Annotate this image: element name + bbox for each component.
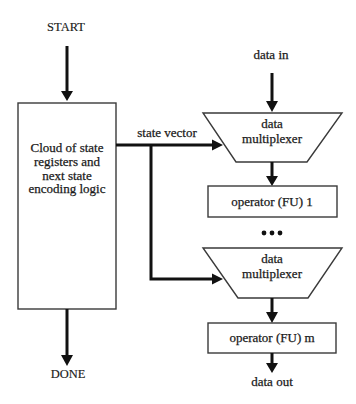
mux-1-line-1: data (261, 116, 283, 131)
controller-line-4: encoding logic (29, 181, 106, 196)
mux-m-to-operator-m-arrow-icon (266, 298, 278, 323)
operator-1-box: operator (FU) 1 (208, 186, 337, 217)
controller-box: Cloud of state registers and next state … (18, 103, 116, 309)
operator-m-label: operator (FU) m (229, 330, 314, 345)
done-label: DONE (51, 367, 86, 381)
data-in-arrow-icon (266, 73, 278, 112)
ellipsis-icon (262, 231, 283, 236)
fsm-datapath-diagram: START Cloud of state registers and next … (0, 0, 356, 404)
data-multiplexer-m: data multiplexer (203, 248, 342, 298)
mux-m-line-1: data (261, 251, 283, 266)
data-in-label: data in (253, 47, 289, 62)
state-vector-arrow-1-icon (116, 140, 223, 151)
controller-line-2: registers and (34, 154, 101, 169)
data-out-arrow-icon (266, 353, 278, 373)
mux-1-to-operator-1-arrow-icon (266, 162, 278, 186)
controller-line-1: Cloud of state (31, 140, 104, 155)
mux-m-line-2: multiplexer (242, 266, 303, 281)
start-arrow-icon (61, 46, 73, 101)
state-vector-label: state vector (137, 125, 197, 140)
operator-1-label: operator (FU) 1 (231, 194, 313, 209)
operator-m-box: operator (FU) m (208, 323, 336, 353)
data-multiplexer-1: data multiplexer (203, 113, 342, 162)
start-label: START (47, 20, 85, 34)
mux-1-line-2: multiplexer (242, 131, 303, 146)
done-arrow-icon (61, 309, 73, 366)
data-out-label: data out (251, 374, 293, 389)
